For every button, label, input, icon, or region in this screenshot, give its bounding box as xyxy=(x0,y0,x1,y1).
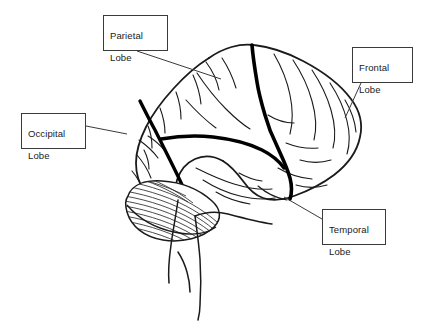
lateral-sulcus xyxy=(161,136,284,168)
leader-temporal xyxy=(284,197,322,219)
occipital-label-line1: Occipital xyxy=(28,128,80,139)
temporal-lobe-label[interactable]: Temporal Lobe xyxy=(322,209,386,245)
frontal-label-line2: Lobe xyxy=(359,84,407,95)
parietal-lobe-label[interactable]: Parietal Lobe xyxy=(103,15,168,51)
cerebrum-outline xyxy=(136,45,361,200)
occipital-lobe-label[interactable]: Occipital Lobe xyxy=(21,113,86,149)
parietal-label-line1: Parietal xyxy=(110,30,162,41)
temporal-label-line2: Lobe xyxy=(329,246,380,257)
brain-diagram-canvas: Parietal Lobe Frontal Lobe Occipital Lob… xyxy=(0,0,425,323)
frontal-label-line1: Frontal xyxy=(359,62,407,73)
leader-lines xyxy=(86,51,361,219)
leader-occipital xyxy=(86,126,127,134)
cerebellum xyxy=(118,174,225,265)
frontal-lobe-label[interactable]: Frontal Lobe xyxy=(352,47,413,83)
occipital-label-line2: Lobe xyxy=(28,150,80,161)
parietal-label-line2: Lobe xyxy=(110,52,162,63)
temporal-label-line1: Temporal xyxy=(329,224,380,235)
